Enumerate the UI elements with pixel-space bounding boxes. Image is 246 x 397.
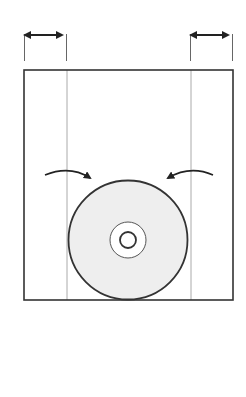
disc-center-hole (120, 232, 136, 248)
diagram-canvas (0, 0, 246, 397)
left-margin-dimension (25, 34, 67, 61)
disc-placement-diagram (0, 0, 246, 397)
right-margin-dimension (191, 34, 233, 61)
disc (69, 181, 188, 300)
